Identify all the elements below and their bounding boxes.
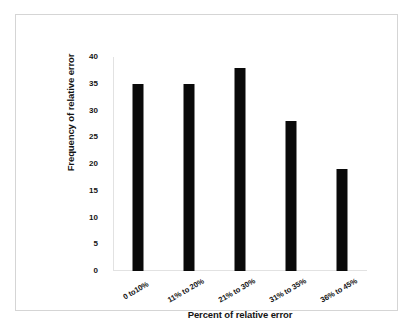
y-axis-tick-label: 10 bbox=[76, 214, 98, 222]
x-axis-tick-slot: 31% to 35% bbox=[265, 273, 316, 311]
x-axis-tick-slot: 11% to 20% bbox=[164, 273, 215, 311]
y-axis-tick-label: 5 bbox=[76, 240, 98, 248]
bar[interactable] bbox=[285, 121, 296, 271]
bar[interactable] bbox=[336, 169, 347, 271]
x-axis-tick-labels: 0 to10%11% to 20%21% to 30%31% to 35%36%… bbox=[113, 273, 367, 311]
bar-slot bbox=[316, 57, 367, 271]
x-axis-tick-slot: 0 to10% bbox=[113, 273, 164, 311]
bar[interactable] bbox=[133, 84, 144, 271]
bar-slot bbox=[265, 57, 316, 271]
plot-area bbox=[113, 57, 367, 271]
x-axis-tick-label: 0 to10% bbox=[122, 280, 151, 302]
x-axis-tick-label: 11% to 20% bbox=[166, 277, 205, 305]
x-axis-title: Percent of relative error bbox=[113, 309, 367, 320]
x-axis-tick-label: 21% to 30% bbox=[217, 276, 257, 304]
y-axis-tick-labels: 0510152025303540 bbox=[76, 51, 98, 272]
x-axis-tick-slot: 21% to 30% bbox=[215, 273, 266, 311]
y-axis-tick-label: 20 bbox=[76, 160, 98, 168]
y-axis-tick-label: 35 bbox=[76, 80, 98, 88]
x-axis-tick-label: 31% to 35% bbox=[268, 276, 308, 304]
y-axis-tick-label: 0 bbox=[76, 267, 98, 275]
y-axis-tick-label: 25 bbox=[76, 133, 98, 141]
bar-slot bbox=[164, 57, 215, 271]
x-axis-tick-slot: 36% to 45% bbox=[316, 273, 367, 311]
x-axis-tick-label: 36% to 45% bbox=[318, 276, 358, 304]
bar[interactable] bbox=[234, 68, 245, 271]
y-axis-tick-label: 15 bbox=[76, 187, 98, 195]
bar-series bbox=[113, 57, 367, 271]
y-axis-title: Frequency of relative error bbox=[65, 33, 76, 193]
figure-container: Frequency of relative error 051015202530… bbox=[0, 0, 414, 327]
y-axis-tick-label: 40 bbox=[76, 53, 98, 61]
bar[interactable] bbox=[184, 84, 195, 271]
bar-slot bbox=[215, 57, 266, 271]
bar-slot bbox=[113, 57, 164, 271]
y-axis-tick-label: 30 bbox=[76, 107, 98, 115]
chart-frame: Frequency of relative error 051015202530… bbox=[15, 14, 398, 311]
